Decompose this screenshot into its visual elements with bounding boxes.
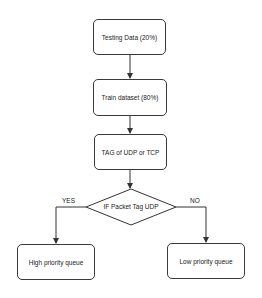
node-label: TAG of UDP or TCP xyxy=(102,149,160,156)
node-high-priority: High priority queue xyxy=(17,244,95,280)
node-label: Testing Data (20%) xyxy=(102,34,157,41)
decision-label: IF Packet Tag UDP xyxy=(86,203,176,210)
node-label: Train dataset (80%) xyxy=(102,94,159,101)
node-label: High priority queue xyxy=(29,259,84,266)
edge-no-label: NO xyxy=(190,197,200,204)
edge-yes-label: YES xyxy=(62,197,75,204)
node-tag: TAG of UDP or TCP xyxy=(94,134,167,170)
node-testing-data: Testing Data (20%) xyxy=(93,19,166,55)
node-low-priority: Low priority queue xyxy=(167,243,245,279)
node-label: Low priority queue xyxy=(179,258,232,265)
node-train-dataset: Train dataset (80%) xyxy=(93,79,167,116)
